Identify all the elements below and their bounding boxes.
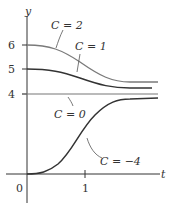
t-tick-label-1: 1 <box>82 182 89 195</box>
label-cm4: C = −4 <box>100 155 141 168</box>
curve-c1 <box>27 69 152 88</box>
label-c1: C = 1 <box>75 40 107 53</box>
label-c2: C = 2 <box>51 19 83 32</box>
t-axis-label: t <box>161 168 166 181</box>
leader-c1 <box>77 54 80 72</box>
leader-c0 <box>68 97 73 106</box>
leader-c2 <box>56 30 63 48</box>
y-tick-label-6: 6 <box>8 39 15 52</box>
y-tick-label-5: 5 <box>8 63 15 76</box>
origin-label: 0 <box>16 182 23 195</box>
label-c0: C = 0 <box>54 108 86 121</box>
y-axis-label: y <box>24 5 32 18</box>
solution-curves-chart: y t 0 1 6 5 4 C = 2 C = 1 C = 0 C = −4 <box>0 0 173 205</box>
y-tick-label-4: 4 <box>8 88 15 101</box>
